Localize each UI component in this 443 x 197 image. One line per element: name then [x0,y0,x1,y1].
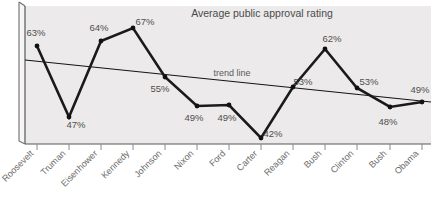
data-label-carter: 42% [263,128,283,139]
chart-container: Average public approval rating trend lin… [0,0,443,197]
data-label-nixon: 49% [184,112,204,123]
data-label-obama: 49% [410,84,430,95]
data-point-marker [420,100,425,105]
category-label-roosevelt: Roosevelt [0,148,36,184]
data-label-kennedy: 67% [135,16,155,27]
data-point-marker [323,47,328,52]
data-point-marker [163,75,168,80]
x-axis-category-labels: Roosevelt Truman Eisenhower Kennedy John… [0,148,420,189]
chart-title: Average public approval rating [191,7,333,19]
category-label-kennedy: Kennedy [99,148,132,181]
data-label-bush-w: 48% [378,116,398,127]
trend-line-label: trend line [213,68,250,78]
category-label-ford: Ford [207,148,227,168]
data-label-truman: 47% [66,119,86,130]
data-label-eisenhower: 64% [89,22,109,33]
category-label-reagan: Reagan [262,148,291,177]
data-point-marker [195,104,200,109]
approval-rating-line-chart: Average public approval rating trend lin… [0,0,443,197]
data-label-ford: 49% [217,112,237,123]
category-label-truman: Truman [39,148,68,177]
data-point-marker [99,39,104,44]
data-label-reagan: 53% [293,76,313,87]
category-label-bush-w: Bush [367,148,389,170]
data-label-johnson: 55% [150,83,170,94]
data-point-marker [388,105,393,110]
category-label-nixon: Nixon [172,148,195,171]
category-label-johnson: Johnson [132,148,163,179]
data-label-roosevelt: 63% [26,27,46,38]
x-axis-ticks [37,144,422,150]
data-point-marker [227,103,232,108]
category-label-carter: Carter [235,148,260,173]
data-point-marker [35,44,40,49]
category-label-clinton: Clinton [329,148,356,175]
category-label-obama: Obama [392,148,420,176]
data-label-bush-hw: 62% [322,33,342,44]
category-label-bush-hw: Bush [302,148,324,170]
plot-wall-left [19,2,25,144]
data-label-clinton: 53% [359,76,379,87]
